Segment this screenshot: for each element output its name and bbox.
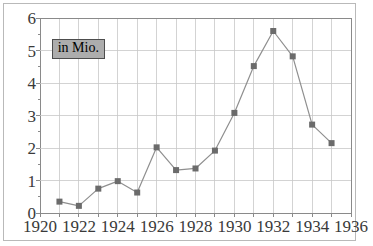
unit-annotation-label: in Mio. [52,39,105,59]
y-tick-label: 6 [10,10,36,27]
y-tick-label: 3 [10,108,36,125]
x-tick-label: 1936 [323,218,373,235]
x-axis-tick-labels: 192019221924192619281930193219341936 [40,218,351,242]
y-axis-tick-labels: 0123456 [6,18,36,213]
y-tick-label: 5 [10,43,36,60]
chart-frame: 0123456 19201922192419261928193019321934… [3,3,356,241]
y-tick-label: 2 [10,140,36,157]
y-tick-label: 4 [10,75,36,92]
y-tick-label: 1 [10,173,36,190]
